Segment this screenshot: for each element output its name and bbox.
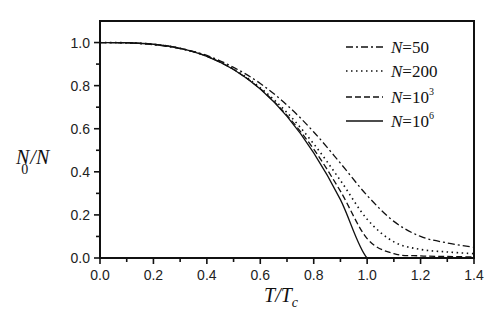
y-tick-label: 1.0 (71, 35, 91, 51)
y-tick-label: 0.2 (71, 207, 91, 223)
y-tick-label: 0.4 (71, 164, 91, 180)
y-tick-label: 0.6 (71, 121, 91, 137)
chart: 0.00.20.40.60.81.01.21.4 0.00.20.40.60.8… (0, 0, 496, 328)
x-tick-label: 1.4 (464, 267, 484, 283)
x-tick-label: 1.2 (411, 267, 431, 283)
x-tick-label: 0.8 (304, 267, 324, 283)
svg-text:N0/N: N0/N (15, 146, 51, 177)
legend-label-n1e6: N=106 (390, 110, 434, 131)
y-tick-label: 0.0 (71, 250, 91, 266)
x-tick-labels: 0.00.20.40.60.81.01.21.4 (90, 267, 484, 283)
legend-label-n200: N=200 (390, 62, 437, 81)
svg-text:T/Tc: T/Tc (264, 284, 299, 310)
legend-label-n50: N=50 (390, 38, 429, 57)
x-axis-label: T/Tc (264, 284, 299, 310)
x-tick-label: 0.4 (197, 267, 217, 283)
x-tick-label: 0.6 (251, 267, 271, 283)
x-tick-label: 0.0 (90, 267, 110, 283)
y-tick-label: 0.8 (71, 78, 91, 94)
y-axis-label: N0/N (15, 146, 51, 177)
x-tick-label: 0.2 (144, 267, 164, 283)
legend: N=50 N=200 N=103 N=106 (346, 38, 437, 131)
x-tick-label: 1.0 (357, 267, 377, 283)
legend-label-n1e3: N=103 (390, 86, 434, 107)
y-tick-labels: 0.00.20.40.60.81.0 (71, 35, 91, 266)
